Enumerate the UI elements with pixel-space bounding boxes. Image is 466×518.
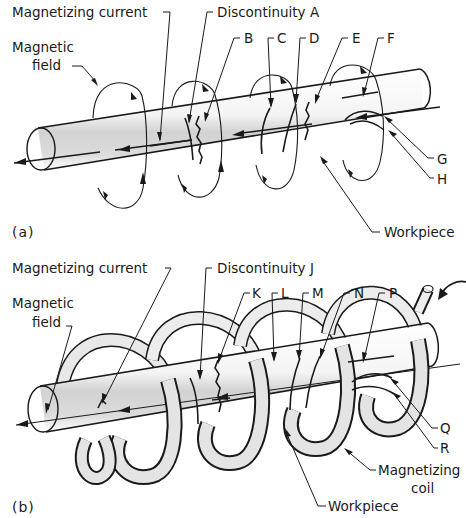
label-f: F [387, 30, 395, 46]
arrow-icon [16, 420, 28, 427]
label-q: Q [440, 420, 451, 436]
magnetic-particle-inspection-diagram: Magnetizing current Magnetic field Disco… [0, 0, 466, 518]
label-magnetizing-coil-line1: Magnetizing [378, 462, 460, 478]
label-magnetic-field-a-line1: Magnetic [12, 39, 74, 55]
label-magnetizing-coil-line2: coil [411, 480, 434, 496]
label-l: L [281, 285, 289, 301]
label-workpiece-b: Workpiece [328, 498, 399, 514]
panel-b: Magnetizing current Magnetic field Disco… [12, 260, 466, 515]
workpiece-rod-a [27, 69, 430, 170]
arrow-icon [103, 191, 108, 200]
discontinuity-r-mark [352, 387, 394, 394]
label-n: N [354, 285, 364, 301]
arrow-icon [131, 92, 137, 100]
label-r: R [440, 440, 449, 456]
label-workpiece-a: Workpiece [384, 224, 455, 240]
label-magnetizing-current-b: Magnetizing current [12, 260, 147, 276]
label-c: C [277, 30, 286, 46]
arrow-icon [390, 378, 399, 385]
label-discontinuity-j: Discontinuity J [217, 260, 314, 276]
label-magnetic-field-b-line1: Magnetic [12, 295, 74, 311]
arrow-icon [344, 448, 353, 455]
label-m: M [312, 285, 324, 301]
label-k: K [252, 285, 262, 301]
label-p: P [389, 285, 397, 301]
label-discontinuity-a: Discontinuity A [217, 4, 320, 20]
label-magnetic-field-a-line2: field [32, 57, 61, 73]
label-b: B [244, 30, 253, 46]
label-h: H [437, 171, 447, 187]
arrow-icon [388, 130, 397, 137]
panel-b-tag: (b) [12, 499, 35, 515]
panel-a-tag: (a) [12, 224, 35, 240]
arrow-icon [218, 160, 224, 172]
label-magnetic-field-b-line2: field [32, 314, 61, 330]
label-d: D [309, 30, 319, 46]
arrow-icon [384, 116, 393, 123]
label-e: E [352, 30, 361, 46]
arrow-icon [91, 78, 98, 86]
label-g: G [437, 151, 447, 167]
arrow-icon [320, 156, 328, 164]
arrow-icon [262, 175, 267, 184]
discontinuity-h-mark [350, 121, 384, 130]
arrow-icon [14, 158, 26, 165]
label-magnetizing-current-a: Magnetizing current [12, 4, 147, 20]
arrow-icon [392, 392, 401, 399]
panel-a: Magnetizing current Magnetic field Disco… [12, 4, 455, 240]
